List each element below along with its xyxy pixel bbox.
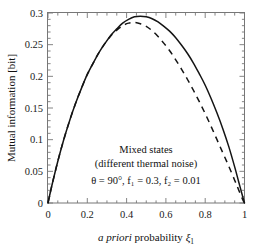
mutual-information-plot: 00.050.10.150.20.250.3 00.20.40.60.81 Mi… <box>0 0 258 249</box>
y-tick-label: 0.2 <box>30 71 43 82</box>
y-tick-label: 0.3 <box>30 8 43 19</box>
annotation-line-parameters: θ = 90°, f₁ = 0.3, f₂ = 0.01 <box>91 175 201 186</box>
annotation-line-thermal-noise: (different thermal noise) <box>95 158 198 170</box>
y-tick-label: 0.05 <box>25 166 43 177</box>
y-tick-label: 0.15 <box>25 103 43 114</box>
x-tick-label: 0 <box>45 209 50 220</box>
x-tick-label: 0.6 <box>159 209 172 220</box>
x-axis-title-roman-part: probability <box>135 231 184 243</box>
y-tick-label: 0.25 <box>25 39 43 50</box>
x-axis-title-italic-part: a priori <box>98 231 132 243</box>
annotation-line-mixed-states: Mixed states <box>119 144 172 155</box>
y-tick-label: 0.1 <box>30 134 43 145</box>
x-axis-title-symbol-subscript: 1 <box>190 237 194 246</box>
y-tick-label: 0 <box>38 198 43 209</box>
x-tick-label: 0.4 <box>120 209 134 220</box>
x-tick-label: 0.8 <box>199 209 212 220</box>
x-tick-label: 1 <box>242 209 247 220</box>
chart-figure: 00.050.10.150.20.250.3 00.20.40.60.81 Mi… <box>0 0 258 249</box>
y-axis-title: Mutual information [bit] <box>5 54 17 162</box>
x-tick-label: 0.2 <box>81 209 94 220</box>
